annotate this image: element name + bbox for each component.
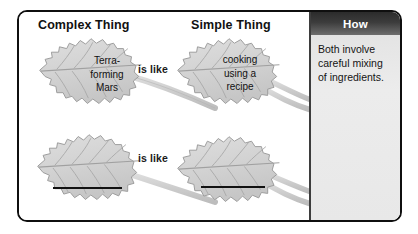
how-panel-body: Both involve careful mixing of ingredien… [311,35,400,220]
leaf-complex-row2 [38,135,140,200]
answer-blank-simple-row2[interactable] [201,186,265,188]
diagram-frame: Complex Thing Simple Thing is like is li… [17,10,402,222]
how-panel: How Both involve careful mixing of ingre… [309,12,400,220]
how-panel-text: Both involve careful mixing of ingredien… [318,42,394,84]
how-panel-header: How [311,12,400,35]
analogy-main-area: Complex Thing Simple Thing is like is li… [19,12,309,220]
how-panel-title: How [343,18,368,30]
answer-blank-complex-row2[interactable] [53,187,122,189]
relation-label-row2: is like [138,152,168,164]
column-heading-complex: Complex Thing [38,18,130,32]
leaf-complex-row1 [40,39,142,104]
relation-label-row1: is like [138,63,168,75]
analogy-diagram: Complex Thing Simple Thing is like is li… [0,0,418,234]
column-heading-simple: Simple Thing [191,18,271,32]
leaf-simple-row1 [178,39,280,104]
